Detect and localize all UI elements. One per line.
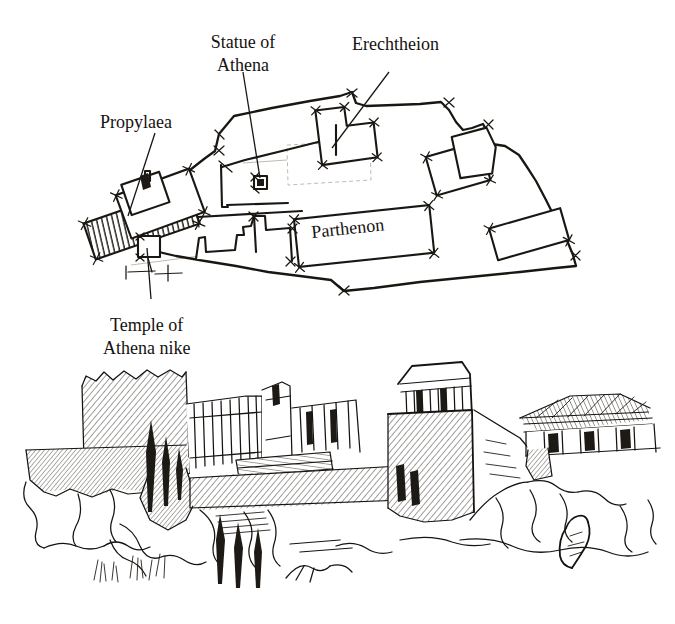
label-statue-of-athena-line1: Statue of xyxy=(211,32,276,52)
acropolis-figure: Propylaea Statue of Athena Erechtheion T… xyxy=(0,0,675,624)
label-temple-of-athena-nike-line2: Athena nike xyxy=(103,338,190,358)
label-erechtheion: Erechtheion xyxy=(352,34,439,54)
label-temple-of-athena-nike-line1: Temple of xyxy=(110,315,183,335)
figure-canvas: Propylaea Statue of Athena Erechtheion T… xyxy=(0,0,675,624)
canvas-background xyxy=(0,0,675,624)
label-statue-of-athena-line2: Athena xyxy=(217,55,269,75)
label-propylaea: Propylaea xyxy=(100,112,172,132)
